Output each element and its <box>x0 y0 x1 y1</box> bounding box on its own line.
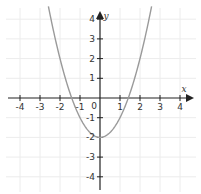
x-tick-label: -2 <box>56 102 65 112</box>
y-tick-label: 3 <box>89 34 95 44</box>
x-tick-label: -3 <box>36 102 45 112</box>
x-tick-label: -1 <box>76 102 85 112</box>
x-tick-label: 2 <box>137 102 143 112</box>
x-tick-label: 4 <box>177 102 183 112</box>
x-tick-label: -4 <box>16 102 25 112</box>
x-axis-name: x <box>181 84 186 94</box>
x-tick-label: 1 <box>117 102 123 112</box>
grid-lines <box>6 8 196 192</box>
axis-labels: -4-3-2-11234-4-3-2-112340xy <box>16 11 187 182</box>
y-tick-label: 2 <box>89 54 95 64</box>
y-tick-label: -4 <box>86 172 95 182</box>
x-axis-arrow-icon <box>186 94 194 102</box>
y-tick-label: -1 <box>86 113 95 123</box>
y-tick-label: -3 <box>86 152 95 162</box>
origin-label: 0 <box>91 101 97 111</box>
x-tick-label: 3 <box>157 102 163 112</box>
y-tick-label: -2 <box>86 132 95 142</box>
y-tick-label: 1 <box>89 73 95 83</box>
function-graph: -4-3-2-11234-4-3-2-112340xy <box>0 0 201 194</box>
axes <box>8 11 194 190</box>
y-tick-label: 4 <box>89 14 95 24</box>
y-axis-name: y <box>102 11 109 21</box>
